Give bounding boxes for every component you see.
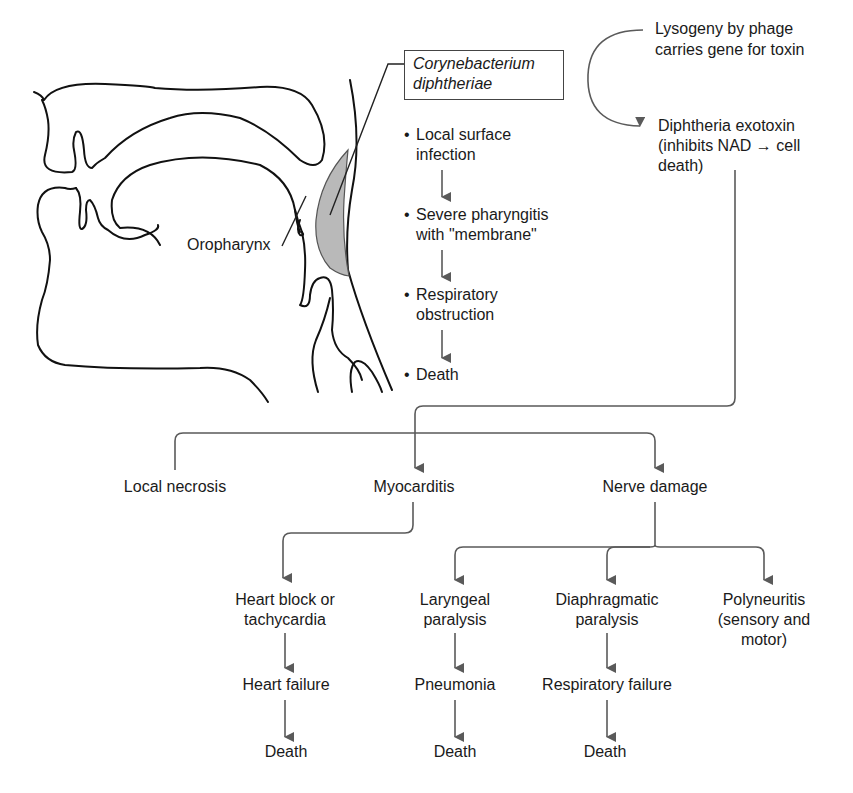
lysogeny-arrow xyxy=(588,30,643,126)
toxin-label: Diphtheria exotoxin (inhibits NAD → cell… xyxy=(658,116,800,176)
pneumonia-label: Pneumonia xyxy=(415,675,496,695)
larynx-outline xyxy=(312,298,330,392)
heart-block-label: Heart block or tachycardia xyxy=(235,590,335,630)
local-course-step-4: •Death xyxy=(404,365,459,385)
effect-myocarditis: Myocarditis xyxy=(374,477,455,497)
effect-local-necrosis: Local necrosis xyxy=(124,477,226,497)
laryngeal-paralysis-label: Laryngeal paralysis xyxy=(420,590,490,630)
polyneuritis-label: Polyneuritis (sensory and motor) xyxy=(718,590,811,650)
diaphragmatic-paralysis-label: Diaphragmatic paralysis xyxy=(555,590,658,630)
local-course-step-1: •Local surfaceinfection xyxy=(404,125,511,165)
heart-failure-label: Heart failure xyxy=(242,675,329,695)
lower-jaw-outline xyxy=(37,188,268,402)
organism-label-box: Corynebacterium diphtheriae xyxy=(404,50,564,100)
bullet-icon: • xyxy=(404,205,416,225)
tongue-outline xyxy=(112,158,300,246)
bullet-icon: • xyxy=(404,125,416,145)
organism-name-line1: Corynebacterium xyxy=(413,54,555,74)
organism-name-line2: diphtheriae xyxy=(413,74,555,94)
bullet-icon: • xyxy=(404,365,416,385)
bullet-icon: • xyxy=(404,285,416,305)
oropharynx-label: Oropharynx xyxy=(187,235,271,255)
death-label-laryngeal: Death xyxy=(434,742,477,762)
death-label-heart: Death xyxy=(265,742,308,762)
phage-label: Lysogeny by phage carries gene for toxin xyxy=(655,18,804,60)
pseudomembrane xyxy=(316,150,349,276)
pharynx-wall-outline xyxy=(347,80,392,390)
local-course-step-3: •Respiratoryobstruction xyxy=(404,285,498,325)
respiratory-failure-label: Respiratory failure xyxy=(542,675,672,695)
death-label-diaphragmatic: Death xyxy=(584,742,627,762)
local-course-step-2: •Severe pharyngitiswith "membrane" xyxy=(404,205,549,245)
effect-nerve-damage: Nerve damage xyxy=(603,477,708,497)
